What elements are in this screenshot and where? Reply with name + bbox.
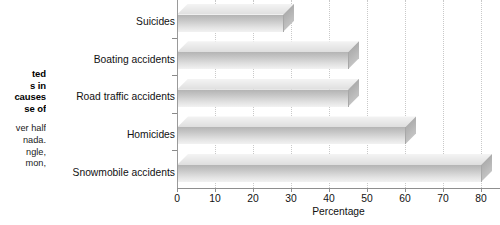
bar-front-face [177,165,482,182]
x-tick-mark [367,188,368,192]
bar-front-face [177,90,349,107]
caption-title-line: s in [0,80,46,92]
category-label: Suicides [0,16,175,27]
x-tick-label: 70 [423,193,463,204]
bar-front-face [177,127,406,144]
x-tick-label: 0 [157,193,197,204]
x-tick-mark [481,188,482,192]
bar-front-face [177,52,349,69]
x-tick-mark [253,188,254,192]
x-tick-label: 80 [461,193,500,204]
category-label: Road traffic accidents [0,91,175,102]
category-label: Snowmobile accidents [0,167,175,178]
y-tick-mark [172,38,177,39]
category-label: Boating accidents [0,54,175,65]
x-tick-label: 30 [271,193,311,204]
y-axis-line [177,0,178,188]
caption-body-line: ngle, [0,147,46,159]
x-tick-mark [329,188,330,192]
x-tick-mark [443,188,444,192]
x-tick-mark [177,188,178,192]
bar-top-face [177,79,359,90]
x-tick-mark [291,188,292,192]
bar-front-face [177,15,284,32]
bar-top-face [177,41,359,52]
bar-top-face [177,4,294,15]
x-axis-title: Percentage [177,206,500,217]
x-axis-line [177,188,500,189]
x-tick-label: 10 [195,193,235,204]
figure-caption: ted s in causes se of ver half nada. ngl… [0,68,46,170]
plot-area [177,0,500,188]
x-tick-label: 20 [233,193,273,204]
x-tick-label: 50 [347,193,387,204]
category-label: Homicides [0,129,175,140]
bar-top-face [177,154,492,165]
figure-panel: ted s in causes se of ver half nada. ngl… [0,0,500,225]
bar-top-face [177,116,416,127]
caption-title-line: ted [0,68,46,80]
x-tick-label: 60 [385,193,425,204]
y-tick-mark [172,113,177,114]
x-tick-mark [215,188,216,192]
x-tick-label: 40 [309,193,349,204]
bar-chart: 01020304050607080 SuicidesBoating accide… [60,0,500,225]
caption-title-line: se of [0,103,46,115]
y-tick-mark [172,150,177,151]
x-tick-mark [405,188,406,192]
y-tick-mark [172,75,177,76]
